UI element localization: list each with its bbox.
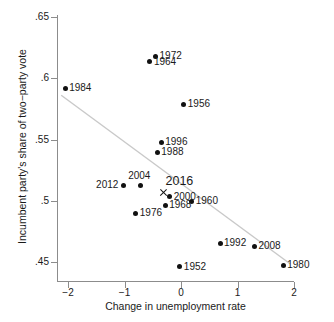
data-point-1996 bbox=[159, 140, 164, 145]
data-point-label-2008: 2008 bbox=[258, 241, 280, 251]
data-point-label-1980: 1980 bbox=[287, 260, 309, 270]
scatter-chart: .45.5.55.6.65 −2−1012 198419721964195619… bbox=[0, 0, 334, 322]
data-point-label-1984: 1984 bbox=[69, 83, 91, 93]
y-tick bbox=[51, 262, 57, 263]
y-axis-line bbox=[57, 15, 58, 282]
data-point-1988 bbox=[155, 150, 160, 155]
data-point-1968 bbox=[163, 203, 168, 208]
x-tick-label: 1 bbox=[223, 288, 253, 298]
x-tick-label: 2 bbox=[279, 288, 309, 298]
data-point-label-1992: 1992 bbox=[224, 238, 246, 248]
data-point-label-2016: 2016 bbox=[165, 175, 193, 188]
data-point-2012 bbox=[121, 183, 126, 188]
y-tick bbox=[51, 140, 57, 141]
data-point-label-2004: 2004 bbox=[128, 171, 150, 181]
x-axis-line bbox=[57, 281, 294, 282]
data-point-label-1960: 1960 bbox=[196, 196, 218, 206]
y-tick bbox=[51, 17, 57, 18]
data-point-1984 bbox=[63, 86, 68, 91]
data-point-label-1976: 1976 bbox=[140, 208, 162, 218]
data-point-1956 bbox=[181, 102, 186, 107]
regression-line bbox=[0, 0, 334, 322]
data-point-1980 bbox=[281, 263, 286, 268]
y-tick bbox=[51, 78, 57, 79]
x-tick-label: 0 bbox=[166, 288, 196, 298]
x-tick-label: −2 bbox=[53, 288, 83, 298]
data-point-label-1952: 1952 bbox=[184, 262, 206, 272]
y-axis-title: Incumbent party's share of two−party vot… bbox=[17, 7, 28, 287]
y-tick bbox=[51, 201, 57, 202]
data-point-2008 bbox=[252, 244, 257, 249]
data-point-label-1956: 1956 bbox=[188, 99, 210, 109]
data-point-1976 bbox=[133, 211, 138, 216]
x-tick-label: −1 bbox=[110, 288, 140, 298]
data-point-label-1964: 1964 bbox=[154, 57, 176, 67]
data-point-label-1968: 1968 bbox=[169, 200, 191, 210]
data-point-label-1988: 1988 bbox=[161, 147, 183, 157]
x-axis-title: Change in unemployment rate bbox=[57, 301, 294, 312]
data-point-label-2012: 2012 bbox=[96, 180, 118, 190]
data-point-1992 bbox=[218, 241, 223, 246]
